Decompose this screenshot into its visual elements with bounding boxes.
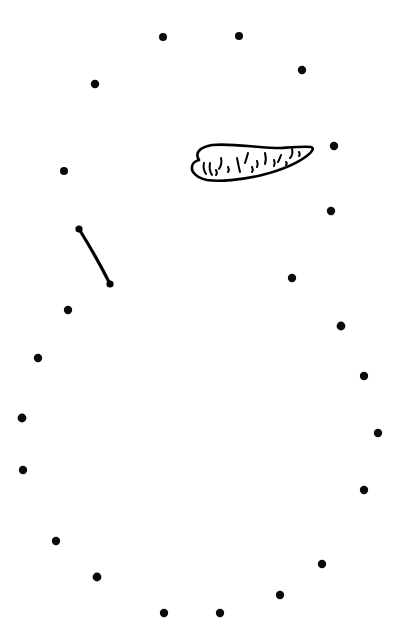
connect-dot[interactable] — [235, 32, 243, 40]
connect-dot[interactable] — [159, 33, 167, 41]
connect-dot[interactable] — [327, 207, 335, 215]
stroke-start-cap — [75, 225, 82, 232]
connect-dot[interactable] — [60, 167, 68, 175]
connect-dot[interactable] — [360, 486, 368, 494]
connect-dot[interactable] — [360, 372, 368, 380]
carrot-speckle — [216, 170, 217, 175]
sketch-surface[interactable] — [0, 0, 405, 633]
canvas-background — [0, 0, 405, 633]
carrot-speckle — [265, 153, 266, 164]
connect-dot[interactable] — [276, 591, 284, 599]
connect-dot[interactable] — [337, 322, 346, 331]
connect-dot[interactable] — [52, 537, 60, 545]
connect-dot[interactable] — [216, 609, 224, 617]
carrot-speckle — [299, 152, 300, 156]
carrot-speckle — [286, 162, 287, 165]
connect-dot[interactable] — [34, 354, 42, 362]
connect-dot[interactable] — [330, 142, 338, 150]
connect-dot[interactable] — [288, 274, 296, 282]
connect-dot[interactable] — [18, 414, 27, 423]
connect-dot[interactable] — [374, 429, 382, 437]
carrot-speckle — [274, 160, 275, 166]
connect-dot[interactable] — [64, 306, 72, 314]
drawing-canvas[interactable] — [0, 0, 405, 633]
connect-dot[interactable] — [160, 609, 168, 617]
carrot-speckle — [252, 167, 253, 172]
connect-dot[interactable] — [91, 80, 99, 88]
carrot-speckle — [257, 161, 258, 167]
connect-dot[interactable] — [19, 466, 27, 474]
connect-dot[interactable] — [318, 560, 326, 568]
connect-dot[interactable] — [298, 66, 306, 74]
carrot-speckle — [228, 167, 229, 172]
connect-dot[interactable] — [93, 573, 102, 582]
stroke-end-cap — [106, 280, 113, 287]
